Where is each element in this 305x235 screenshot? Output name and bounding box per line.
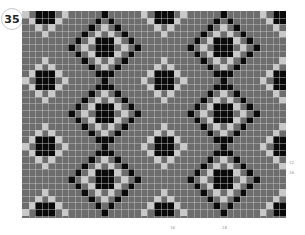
gridline	[279, 11, 280, 218]
gridline	[22, 183, 286, 184]
gridline	[22, 189, 286, 190]
gridline	[121, 11, 122, 218]
gridline	[128, 11, 129, 218]
gridline	[220, 11, 221, 218]
gridline	[22, 176, 286, 177]
gridline	[22, 44, 286, 45]
gridline	[154, 11, 155, 218]
gridline	[22, 169, 286, 170]
gridline	[95, 11, 96, 218]
gridline	[114, 11, 115, 218]
gridline	[22, 77, 286, 78]
gridline	[101, 11, 102, 218]
row-col-number-label: 16	[289, 170, 294, 175]
gridline	[42, 11, 43, 218]
chart-number: 35	[4, 13, 19, 26]
gridline	[108, 11, 109, 218]
gridline	[22, 163, 286, 164]
gridline	[22, 37, 286, 38]
gridline	[22, 136, 286, 137]
gridline	[48, 11, 49, 218]
chart-number-badge: 35	[1, 8, 23, 30]
row-col-number-label: 12	[289, 160, 294, 165]
gridline	[22, 156, 286, 157]
gridline	[22, 209, 286, 210]
gridline	[227, 11, 228, 218]
gridline	[22, 130, 286, 131]
gridline	[22, 117, 286, 118]
gridline	[161, 11, 162, 218]
gridline	[22, 51, 286, 52]
gridline	[29, 11, 30, 218]
gridline	[246, 11, 247, 218]
gridline	[207, 11, 208, 218]
gridline	[22, 64, 286, 65]
gridline	[88, 11, 89, 218]
row-col-number-label: 16	[170, 225, 175, 230]
knitting-chart-grid	[22, 11, 286, 218]
gridline	[240, 11, 241, 218]
gridline	[22, 143, 286, 144]
gridline	[22, 31, 286, 32]
gridline	[22, 57, 286, 58]
gridline	[22, 90, 286, 91]
gridline	[233, 11, 234, 218]
gridline	[22, 103, 286, 104]
gridline	[266, 11, 267, 218]
gridline	[194, 11, 195, 218]
gridline	[253, 11, 254, 218]
gridline	[68, 11, 69, 218]
gridline	[75, 11, 76, 218]
gridline	[200, 11, 201, 218]
gridline	[22, 84, 286, 85]
gridline	[22, 123, 286, 124]
gridline	[22, 110, 286, 111]
gridline	[22, 24, 286, 25]
gridline	[187, 11, 188, 218]
gridline	[260, 11, 261, 218]
gridline	[22, 150, 286, 151]
gridline	[81, 11, 82, 218]
gridline	[22, 70, 286, 71]
gridline	[134, 11, 135, 218]
gridline	[180, 11, 181, 218]
gridline	[35, 11, 36, 218]
gridline	[174, 11, 175, 218]
gridline	[55, 11, 56, 218]
gridline	[22, 196, 286, 197]
gridline	[213, 11, 214, 218]
row-col-number-label: 18	[222, 225, 227, 230]
gridline	[22, 18, 286, 19]
gridline	[22, 202, 286, 203]
gridline	[62, 11, 63, 218]
light-stitch-cell	[22, 11, 29, 18]
gridline	[141, 11, 142, 218]
gridline	[147, 11, 148, 218]
gridline	[22, 97, 286, 98]
gridline	[273, 11, 274, 218]
gridline	[167, 11, 168, 218]
